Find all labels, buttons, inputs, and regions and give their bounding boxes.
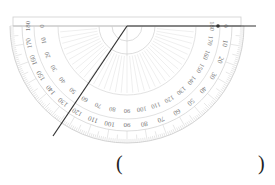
scale-label: 50 bbox=[68, 86, 77, 96]
scale-label: 90 bbox=[124, 108, 131, 115]
scale-label: 80 bbox=[108, 106, 116, 114]
scale-label: 130 bbox=[176, 85, 188, 97]
scale-label: 60 bbox=[171, 107, 181, 118]
scale-label: 160 bbox=[202, 49, 212, 61]
scale-label: 120 bbox=[164, 94, 176, 105]
scale-label: 30 bbox=[208, 71, 219, 81]
protractor-diagram: 0102030405060708090100110120130140150160… bbox=[0, 0, 275, 185]
scale-label: 60 bbox=[80, 95, 89, 104]
scale-label: 80 bbox=[140, 119, 149, 128]
scale-label: 40 bbox=[57, 76, 67, 85]
scale-label: 180 bbox=[24, 20, 32, 31]
scale-label: 100 bbox=[136, 105, 147, 114]
scale-label: 90 bbox=[123, 121, 131, 129]
scale-label: 110 bbox=[150, 101, 161, 111]
scale-label: 100 bbox=[103, 119, 115, 129]
scale-label: 170 bbox=[24, 37, 34, 49]
scale-label: 0 bbox=[38, 24, 45, 27]
scale-label: 140 bbox=[186, 75, 198, 87]
answer-paren-open: ( bbox=[116, 152, 123, 175]
scale-label: 30 bbox=[49, 64, 58, 73]
scale-label: 70 bbox=[156, 114, 166, 124]
scale-label: 20 bbox=[215, 55, 225, 65]
scale-label: 10 bbox=[220, 39, 229, 48]
scale-label: 150 bbox=[195, 63, 206, 75]
answer-paren-close: ) bbox=[258, 152, 265, 175]
scale-label: 70 bbox=[94, 101, 103, 110]
scale-label: 10 bbox=[39, 37, 47, 45]
protractor: 0102030405060708090100110120130140150160… bbox=[10, 17, 244, 143]
scale-label: 170 bbox=[206, 35, 215, 46]
scale-label: 20 bbox=[43, 51, 52, 60]
ray-dot-marker bbox=[216, 24, 220, 28]
